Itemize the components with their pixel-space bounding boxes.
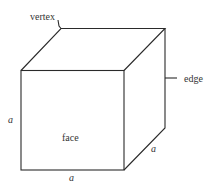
vertex-pointer (58, 20, 61, 29)
vertex-label: vertex (30, 11, 55, 22)
edge-label: edge (184, 73, 203, 84)
top-face (21, 29, 165, 71)
face-label: face (62, 132, 79, 143)
cube-diagram: vertex edge face a a a (0, 0, 219, 186)
side-length-right-label: a (151, 143, 156, 154)
front-face (21, 71, 124, 171)
side-length-bottom-label: a (69, 172, 74, 183)
cube-figure: vertex edge face a a a (0, 0, 219, 186)
side-length-left-label: a (8, 114, 13, 125)
